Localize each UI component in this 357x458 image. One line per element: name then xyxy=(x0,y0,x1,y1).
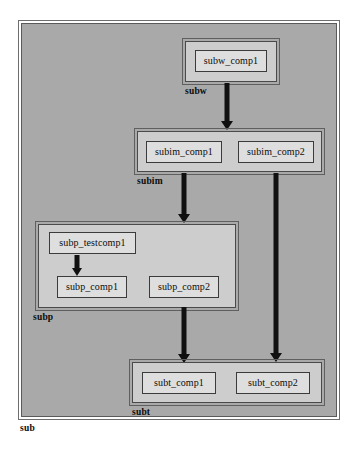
component-subim-comp1: subim_comp1 xyxy=(146,141,222,163)
arrow-subim-comp2-to-subt xyxy=(269,173,283,362)
component-subt-comp2: subt_comp2 xyxy=(236,372,310,394)
package-label-sub: sub xyxy=(20,424,35,434)
arrow-subw-to-subim xyxy=(220,83,234,130)
arrow-subim-comp1-to-subp xyxy=(177,173,191,223)
component-subp-comp1: subp_comp1 xyxy=(57,276,127,298)
package-label-subp: subp xyxy=(33,313,53,323)
diagram-canvas: sub subw_comp1 subw subim_comp1 subim_co… xyxy=(0,0,357,458)
component-subt-comp1: subt_comp1 xyxy=(142,372,216,394)
component-subp-comp2: subp_comp2 xyxy=(149,276,219,298)
package-label-subim: subim xyxy=(137,177,163,187)
component-subp-testcomp1: subp_testcomp1 xyxy=(49,232,136,254)
package-label-subt: subt xyxy=(132,408,150,418)
package-label-subw: subw xyxy=(185,87,207,97)
arrow-subp-testcomp1-to-subp-comp1 xyxy=(71,255,83,276)
arrow-subp-to-subt xyxy=(177,307,191,363)
component-subw-comp1: subw_comp1 xyxy=(195,50,267,72)
component-subim-comp2: subim_comp2 xyxy=(238,141,314,163)
